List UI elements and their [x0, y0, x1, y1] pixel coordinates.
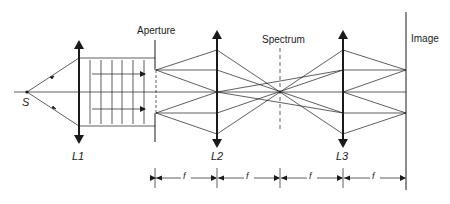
arrow-down-icon [212, 139, 222, 148]
lens-l3-label: L3 [336, 150, 348, 162]
focal-scale [155, 168, 405, 188]
focal-label: f [246, 171, 249, 181]
arrow-down-icon [338, 139, 348, 148]
arrow-down-icon [74, 135, 84, 144]
lens-l1-label: L1 [72, 150, 84, 162]
focal-label: f [183, 171, 186, 181]
focal-label: f [309, 171, 312, 181]
source-ray-top [27, 58, 79, 92]
optical-4f-diagram: S L1 Aperture L2 Spectrum L3 Image f f f… [0, 0, 450, 204]
focal-label: f [372, 171, 375, 181]
image-label: Image [411, 33, 439, 44]
lens-l2-label: L2 [211, 150, 223, 162]
point-source-icon [25, 90, 28, 93]
source-label: S [22, 96, 29, 108]
arrow-up-icon [338, 30, 348, 39]
diagram-svg [0, 0, 450, 204]
source-ray-bottom [27, 92, 79, 126]
arrow-up-icon [74, 40, 84, 49]
arrow-up-icon [212, 30, 222, 39]
aperture-label: Aperture [137, 25, 175, 36]
spectrum-label: Spectrum [262, 34, 305, 45]
